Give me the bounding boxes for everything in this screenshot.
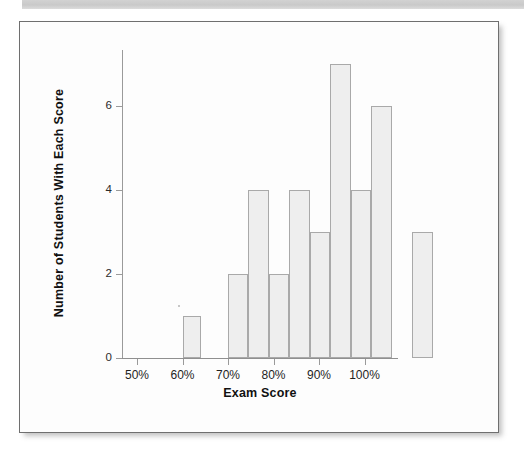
x-tick-label-90: 90% (296, 369, 342, 381)
y-axis-title: Number of Students With Each Score (52, 88, 66, 318)
y-tick-label-4: 4 (96, 184, 112, 196)
histogram-bar (310, 232, 330, 358)
histogram-bar (371, 106, 391, 358)
x-tick-label-80: 80% (251, 369, 297, 381)
x-tick-80 (274, 359, 275, 365)
histogram-bar (351, 190, 371, 358)
x-tick-50 (137, 359, 138, 365)
x-tick-label-60: 60% (160, 369, 206, 381)
histogram-bar (183, 316, 201, 358)
y-tick-label-0: 0 (96, 352, 112, 364)
y-tick-label-2: 2 (96, 268, 112, 280)
y-tick-2 (116, 274, 122, 275)
x-tick-70 (228, 359, 229, 365)
y-tick-6 (116, 106, 122, 107)
x-axis-line (122, 358, 398, 359)
x-tick-label-100: 100% (342, 369, 388, 381)
histogram-bar (269, 274, 289, 358)
y-axis-line (122, 50, 123, 359)
x-axis-title: Exam Score (122, 386, 398, 400)
histogram-bar (228, 274, 248, 358)
scan-speck (178, 305, 180, 307)
x-tick-label-70: 70% (205, 369, 251, 381)
histogram-bar (289, 190, 309, 358)
histogram-chart: 6 4 2 0 50% 60% 70% 80% 90% 100% Exam Sc… (0, 0, 524, 452)
x-tick-100 (365, 359, 366, 365)
histogram-bar (248, 190, 268, 358)
histogram-bar (412, 232, 432, 358)
histogram-bar (330, 64, 350, 358)
y-tick-0 (116, 358, 122, 359)
y-tick-4 (116, 190, 122, 191)
x-tick-label-50: 50% (114, 369, 160, 381)
x-tick-90 (319, 359, 320, 365)
x-tick-60 (183, 359, 184, 365)
y-tick-label-6: 6 (96, 100, 112, 112)
